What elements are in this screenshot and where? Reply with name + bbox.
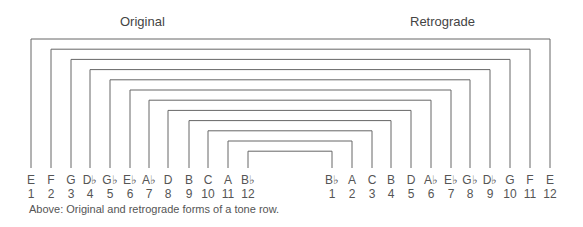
note-label: G♭ (100, 174, 120, 187)
note-number: 12 (540, 188, 560, 201)
note-number: 4 (381, 188, 401, 201)
note-label: G (500, 174, 520, 187)
note-label: E (540, 174, 560, 187)
note-label: G♭ (460, 174, 480, 187)
note-number: 7 (441, 188, 461, 201)
note-label: A♭ (139, 174, 159, 187)
bracket-line (189, 121, 391, 168)
note-label: B (381, 174, 401, 187)
note-label: B (179, 174, 199, 187)
bracket-line (130, 90, 451, 168)
note-number: 10 (500, 188, 520, 201)
bracket-line (208, 131, 372, 168)
note-number: 6 (421, 188, 441, 201)
bracket-line (51, 49, 530, 168)
note-label: F (520, 174, 540, 187)
note-number: 7 (139, 188, 159, 201)
note-number: 6 (120, 188, 140, 201)
bracket-line (110, 80, 470, 168)
retrograde-header: Retrograde (410, 14, 475, 29)
note-label: B♭ (322, 174, 342, 187)
note-label: F (41, 174, 61, 187)
note-label: A♭ (421, 174, 441, 187)
note-label: A (342, 174, 362, 187)
note-label: A (218, 174, 238, 187)
note-number: 5 (401, 188, 421, 201)
note-label: D (401, 174, 421, 187)
note-number: 9 (480, 188, 500, 201)
bracket-line (168, 110, 411, 168)
note-label: C (198, 174, 218, 187)
note-number: 11 (520, 188, 540, 201)
note-number: 3 (362, 188, 382, 201)
note-number: 8 (158, 188, 178, 201)
bracket-line (228, 141, 352, 168)
note-label: D♭ (480, 174, 500, 187)
bracket-line (71, 59, 510, 168)
original-header: Original (120, 14, 165, 29)
note-label: E♭ (120, 174, 140, 187)
note-number: 9 (179, 188, 199, 201)
bracket-line (248, 151, 332, 168)
note-label: G (61, 174, 81, 187)
note-number: 2 (41, 188, 61, 201)
note-number: 4 (80, 188, 100, 201)
note-label: C (362, 174, 382, 187)
note-number: 2 (342, 188, 362, 201)
bracket-line (90, 70, 490, 168)
note-label: E (21, 174, 41, 187)
note-number: 11 (218, 188, 238, 201)
note-number: 5 (100, 188, 120, 201)
note-number: 12 (238, 188, 258, 201)
note-number: 10 (198, 188, 218, 201)
note-label: D♭ (80, 174, 100, 187)
note-label: E♭ (441, 174, 461, 187)
note-number: 1 (21, 188, 41, 201)
note-number: 3 (61, 188, 81, 201)
note-label: D (158, 174, 178, 187)
note-label: B♭ (238, 174, 258, 187)
note-number: 8 (460, 188, 480, 201)
bracket-line (31, 39, 550, 168)
note-number: 1 (322, 188, 342, 201)
caption: Above: Original and retrograde forms of … (29, 203, 279, 215)
